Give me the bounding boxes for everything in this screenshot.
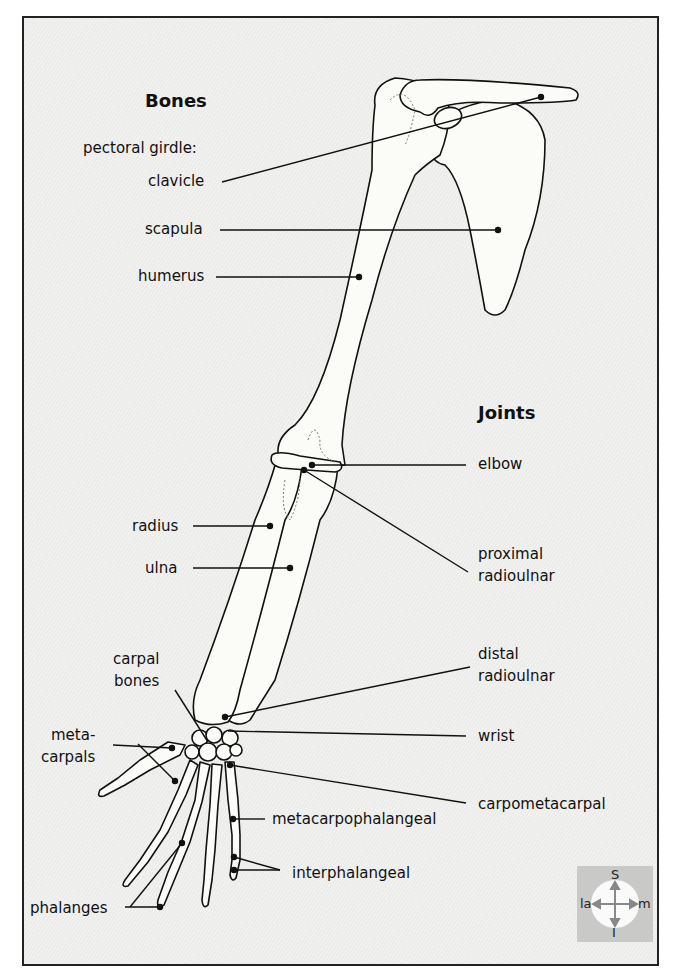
compass-superior: S	[611, 867, 619, 882]
label-metacarpals-2: carpals	[41, 748, 95, 766]
humerus-bone	[278, 78, 449, 467]
label-clavicle: clavicle	[148, 172, 204, 190]
label-radius: radius	[132, 517, 178, 535]
orientation-compass: S I la m	[577, 866, 653, 942]
label-distal-radioulnar-2: radioulnar	[478, 667, 555, 685]
label-metacarpals-1: meta-	[51, 726, 95, 744]
label-proximal-radioulnar-1: proximal	[478, 545, 543, 563]
label-carpal-bones-1: carpal	[113, 650, 160, 668]
label-carpometacarpal: carpometacarpal	[478, 795, 606, 813]
label-metacarpophalangeal: metacarpophalangeal	[272, 810, 436, 828]
label-interphalangeal: interphalangeal	[292, 864, 410, 882]
label-wrist: wrist	[478, 727, 514, 745]
bones-heading: Bones	[145, 90, 207, 111]
label-humerus: humerus	[138, 267, 204, 285]
compass-lateral: la	[580, 896, 592, 911]
compass-medial: m	[638, 896, 651, 911]
label-proximal-radioulnar-2: radioulnar	[478, 567, 555, 585]
label-distal-radioulnar-1: distal	[478, 645, 519, 663]
label-ulna: ulna	[145, 559, 177, 577]
compass-inferior: I	[612, 925, 616, 940]
joints-heading: Joints	[478, 402, 535, 423]
label-phalanges: phalanges	[30, 899, 108, 917]
label-carpal-bones-2: bones	[114, 672, 159, 690]
label-scapula: scapula	[145, 220, 203, 238]
label-pectoral-girdle: pectoral girdle:	[83, 139, 197, 157]
scapula-bone	[431, 100, 545, 315]
label-elbow: elbow	[478, 455, 522, 473]
